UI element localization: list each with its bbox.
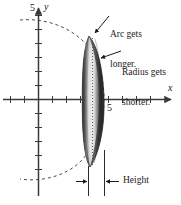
radius-annotation-label: Radius gets shorter. (122, 46, 166, 128)
y-axis-tick-label-5: 5 (30, 3, 35, 14)
radius-annotation-line-1: Radius gets (122, 67, 166, 77)
arc-annotation-line-1: Arc gets (110, 29, 142, 39)
x-axis-label: x (168, 83, 172, 94)
height-measure-group (76, 150, 119, 196)
figure-container: 5 y 5 x Arc gets longer. Radius gets sho… (0, 0, 181, 205)
y-axis-label: y (44, 2, 48, 13)
radius-annotation-line-2: shorter. (122, 97, 166, 107)
x-axis-tick-label-5: 5 (107, 103, 112, 114)
sphere-segment-solid (82, 36, 104, 167)
arc-annotation-arrow (95, 16, 109, 33)
height-annotation-label: Height (123, 175, 149, 185)
